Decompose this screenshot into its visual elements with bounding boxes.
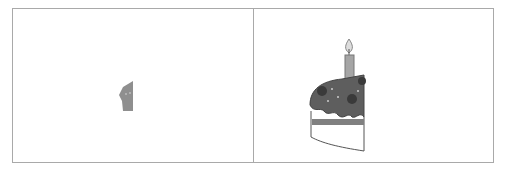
left-image-panel	[12, 8, 254, 163]
cupcake-fragment-icon	[119, 81, 139, 119]
birthday-cake-icon	[308, 37, 368, 155]
right-image-panel	[253, 8, 494, 163]
